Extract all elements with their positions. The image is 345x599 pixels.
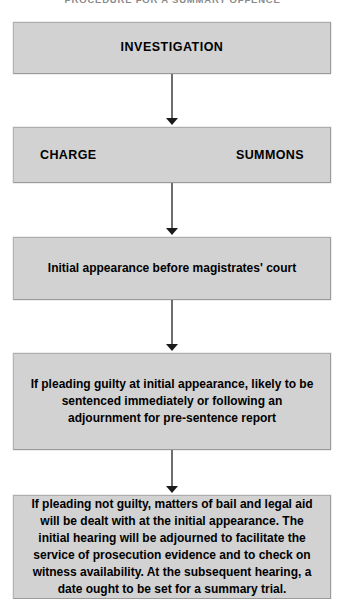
flow-arrowhead-3-icon: [166, 344, 178, 351]
flow-connector-3: [171, 300, 173, 346]
flow-node-guilty-plea: If pleading guilty at initial appearance…: [13, 353, 331, 450]
flow-connector-1: [171, 74, 173, 120]
flow-node-charge-summons: CHARGE SUMMONS: [13, 127, 331, 183]
flow-arrowhead-4-icon: [166, 486, 178, 493]
flow-node-initial-appearance-label: Initial appearance before magistrates' c…: [14, 260, 330, 277]
flow-arrowhead-2-icon: [166, 228, 178, 235]
flow-node-investigation-label: INVESTIGATION: [14, 39, 330, 57]
flow-node-summons-label: SUMMONS: [236, 148, 304, 162]
flow-arrowhead-1-icon: [166, 118, 178, 125]
flow-node-charge-label: CHARGE: [40, 148, 97, 162]
flow-connector-4: [171, 450, 173, 488]
flow-node-guilty-plea-label: If pleading guilty at initial appearance…: [14, 376, 330, 427]
flow-connector-2: [171, 183, 173, 230]
flow-node-initial-appearance: Initial appearance before magistrates' c…: [13, 237, 331, 300]
flow-node-investigation: INVESTIGATION: [13, 22, 331, 74]
page-heading: PROCEDURE FOR A SUMMARY OFFENCE: [0, 0, 345, 4]
flow-node-not-guilty-plea: If pleading not guilty, matters of bail …: [13, 495, 331, 599]
flow-node-not-guilty-plea-label: If pleading not guilty, matters of bail …: [14, 496, 330, 598]
